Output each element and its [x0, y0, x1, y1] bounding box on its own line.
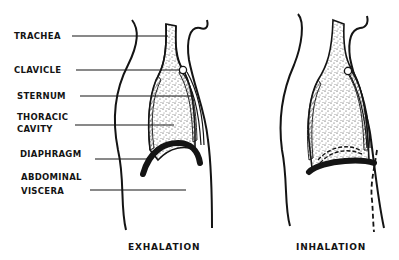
- label-thoracic-cavity-line2: CAVITY: [17, 124, 53, 134]
- label-abdominal-viscera-line1: ABDOMINAL: [21, 172, 82, 182]
- label-diaphragm: DIAPHRAGM: [20, 149, 81, 159]
- inhalation-clavicle: [344, 67, 351, 74]
- label-sternum: STERNUM: [17, 91, 66, 101]
- label-thoracic-cavity-line1: THORACIC: [17, 112, 68, 122]
- caption-exhalation: EXHALATION: [128, 242, 200, 252]
- exhalation-clavicle: [179, 66, 186, 73]
- label-clavicle: CLAVICLE: [14, 65, 61, 75]
- label-abdominal-viscera-line2: VISCERA: [21, 186, 64, 196]
- label-trachea: TRACHEA: [14, 31, 61, 41]
- inhalation-figure: [281, 14, 385, 232]
- inhalation-back-outline: [281, 14, 302, 226]
- exhalation-figure: [72, 20, 212, 230]
- caption-inhalation: INHALATION: [296, 242, 366, 252]
